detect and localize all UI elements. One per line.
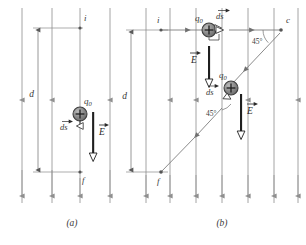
distance-label-a: d: [29, 89, 34, 99]
panel-a: d i f q0 ds E (a): [22, 8, 110, 229]
ds-vector-panel-a: ds: [60, 120, 80, 132]
E-label-b-mid: E: [246, 106, 253, 116]
point-f-label-a: f: [82, 175, 86, 185]
panel-a-caption: (a): [66, 218, 77, 229]
charge-panel-a: q0: [73, 96, 93, 121]
point-f-marker: [78, 170, 81, 173]
field-lines-panel-b: [146, 8, 298, 203]
E-vector-panel-a: E: [89, 112, 107, 162]
point-c-marker: [279, 28, 283, 32]
panel-b: d i c f 45°: [122, 8, 298, 229]
ds-label-b-mid: ds: [206, 87, 214, 97]
angle-label-mid: 45°: [206, 109, 217, 118]
angle-at-c: 45°: [252, 30, 268, 46]
dimension-ticks-panel-a: [33, 28, 83, 172]
charge-label-b-mid: q0: [219, 70, 228, 81]
angle-label-top: 45°: [252, 37, 263, 46]
point-i-label-b: i: [157, 15, 160, 25]
angle-at-mid-charge: 45°: [206, 104, 231, 118]
dimension-d-panel-a: d: [29, 30, 38, 170]
E-vector-top-panel-b: E: [190, 46, 213, 88]
E-label-a: E: [98, 127, 105, 137]
point-i-label-a: i: [84, 13, 87, 23]
field-lines-panel-a: [22, 8, 110, 203]
dimension-ticks-panel-b: [126, 30, 168, 172]
point-i-marker: [78, 26, 81, 29]
point-i-marker: [159, 28, 162, 31]
ds-label-b-top: ds: [216, 11, 224, 21]
point-f-marker: [159, 170, 163, 174]
panel-b-caption: (b): [216, 218, 227, 229]
physics-figure: d i f q0 ds E (a): [0, 0, 306, 245]
path-diagonal-panel-b: [161, 33, 280, 172]
ds-label-a: ds: [60, 122, 68, 132]
point-c-label-b: c: [286, 15, 290, 25]
point-f-label-b: f: [157, 176, 161, 186]
dimension-d-panel-b: d: [122, 32, 131, 170]
distance-label-b: d: [122, 91, 127, 101]
E-vector-mid-panel-b: E: [237, 94, 256, 140]
charge-label-b-top: q0: [195, 13, 204, 24]
E-label-b-top: E: [190, 55, 197, 65]
charge-label-a: q0: [84, 96, 93, 107]
points-panel-b: i c f: [157, 15, 290, 186]
